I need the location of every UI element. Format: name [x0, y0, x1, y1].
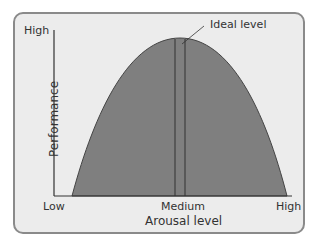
annotation-label: Ideal level [210, 18, 266, 31]
y-axis-label: Performance [47, 81, 61, 157]
x-tick-low: Low [43, 200, 65, 213]
x-axis-label: Arousal level [145, 214, 222, 228]
x-tick-high: High [276, 200, 301, 213]
performance-curve [72, 38, 287, 196]
x-tick-medium: Medium [161, 200, 205, 213]
y-tick-high: High [24, 24, 49, 37]
